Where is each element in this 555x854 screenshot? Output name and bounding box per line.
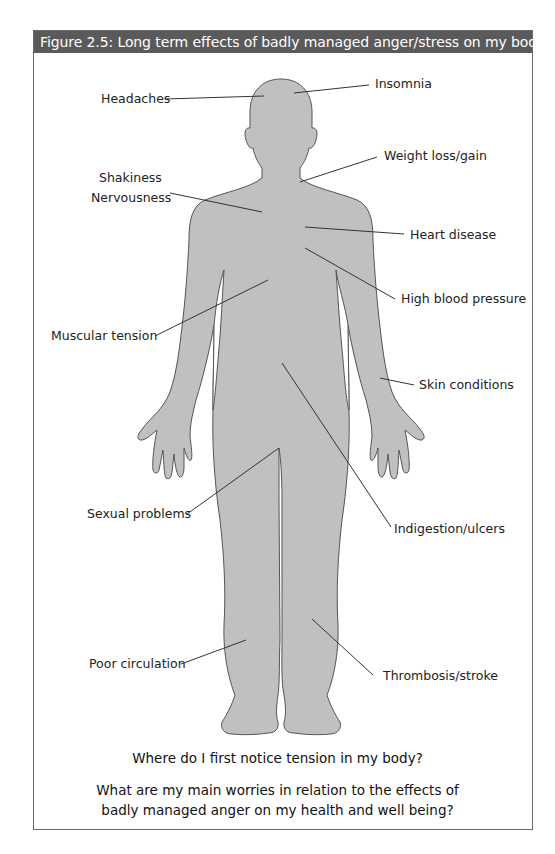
label-headaches: Headaches bbox=[101, 91, 170, 106]
label-sexual: Sexual problems bbox=[87, 506, 191, 521]
body-outline bbox=[138, 79, 424, 735]
label-shakiness: Shakiness bbox=[99, 170, 162, 185]
label-circulation: Poor circulation bbox=[89, 656, 186, 671]
label-skin: Skin conditions bbox=[419, 377, 514, 392]
human-body-diagram bbox=[0, 0, 555, 854]
question-worries-line1: What are my main worries in relation to … bbox=[0, 781, 555, 800]
leader-headaches bbox=[165, 96, 264, 99]
label-heart: Heart disease bbox=[410, 227, 496, 242]
label-insomnia: Insomnia bbox=[375, 76, 432, 91]
label-nervousness: Nervousness bbox=[91, 190, 171, 205]
leader-insomnia bbox=[294, 85, 369, 93]
label-thrombosis: Thrombosis/stroke bbox=[383, 668, 498, 683]
label-weight: Weight loss/gain bbox=[384, 148, 487, 163]
leader-weight bbox=[300, 157, 377, 182]
body-silhouette bbox=[138, 79, 424, 735]
label-blood-pressure: High blood pressure bbox=[401, 291, 526, 306]
label-muscular: Muscular tension bbox=[51, 328, 157, 343]
label-indigestion: Indigestion/ulcers bbox=[394, 521, 505, 536]
question-worries-line2: badly managed anger on my health and wel… bbox=[0, 801, 555, 820]
question-tension: Where do I first notice tension in my bo… bbox=[0, 749, 555, 768]
